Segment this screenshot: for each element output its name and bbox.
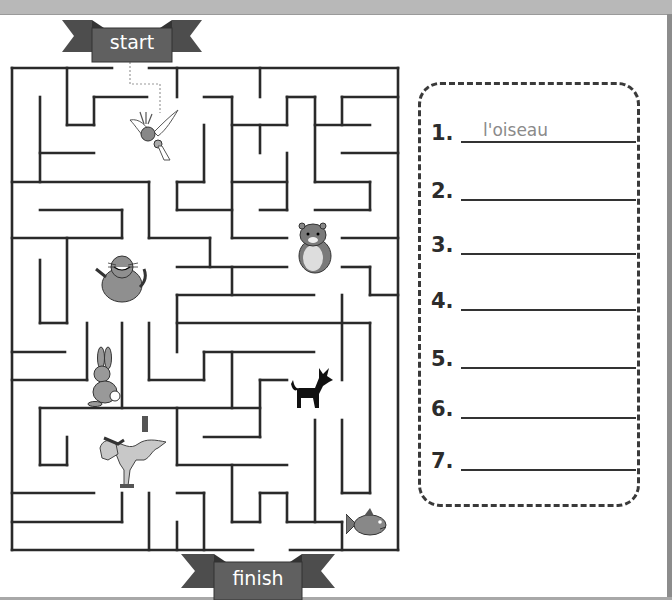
answer-line — [461, 141, 636, 143]
answer-line — [461, 367, 636, 369]
finish-label: finish — [214, 567, 302, 589]
answer-row-3[interactable]: 3. — [431, 227, 636, 259]
answer-line — [461, 469, 636, 471]
answer-row-5[interactable]: 5. — [431, 341, 636, 373]
answer-number: 7. — [431, 449, 454, 473]
answers-box: 1. l'oiseau 2. 3. 4. 5. 6. 7. — [418, 82, 640, 507]
answer-line — [461, 199, 636, 201]
maze — [0, 0, 410, 560]
start-banner: start — [62, 16, 202, 64]
answer-row-6[interactable]: 6. — [431, 391, 636, 423]
answer-row-1[interactable]: 1. l'oiseau — [431, 115, 636, 147]
answer-number: 2. — [431, 179, 454, 203]
answer-number: 6. — [431, 397, 454, 421]
finish-banner: finish — [181, 552, 335, 600]
page-edge — [667, 14, 672, 600]
answer-line — [461, 417, 636, 419]
answer-number: 3. — [431, 233, 454, 257]
parrot-icon — [128, 108, 183, 167]
answer-number: 4. — [431, 289, 454, 313]
answer-row-7[interactable]: 7. — [431, 443, 636, 475]
hamster-icon — [297, 222, 333, 278]
start-label: start — [92, 31, 172, 53]
answer-line — [461, 309, 636, 311]
answer-number: 1. — [431, 121, 454, 145]
horse-icon — [96, 414, 168, 494]
rabbit-icon — [87, 346, 121, 412]
fish-icon — [346, 508, 390, 544]
answer-value[interactable]: l'oiseau — [483, 120, 548, 140]
answer-line — [461, 253, 636, 255]
solution-path — [130, 62, 160, 113]
answer-row-4[interactable]: 4. — [431, 283, 636, 315]
answer-number: 5. — [431, 347, 454, 371]
answer-row-2[interactable]: 2. — [431, 173, 636, 205]
cat-icon — [92, 253, 148, 307]
dog-icon — [289, 366, 335, 416]
